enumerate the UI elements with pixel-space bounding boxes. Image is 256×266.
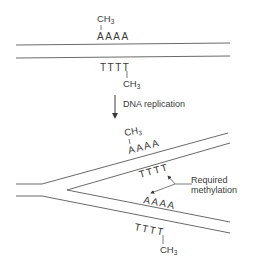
- fork-lower-outer-strand: [16, 196, 230, 233]
- dna-replication-label: DNA replication: [123, 99, 185, 109]
- dna-methylation-diagram: CH3 AAAA TTTT CH3 DNA replication CH3 AA…: [0, 0, 256, 266]
- required-methylation-label-line2: methylation: [191, 185, 237, 195]
- daughter-lower-old-bases: TTTT: [134, 221, 166, 238]
- callout-arrow-lower-icon: [151, 184, 175, 193]
- required-methylation-label-line1: Required: [191, 175, 228, 185]
- parent-top-bases: AAAA: [97, 31, 130, 42]
- replication-step: DNA replication: [115, 95, 185, 116]
- parent-top-strand: [16, 43, 230, 45]
- parent-bottom-bases: TTTT: [100, 62, 130, 73]
- parent-duplex: CH3 AAAA TTTT CH3: [16, 13, 230, 90]
- daughter-upper-methyl-bond: [129, 139, 130, 144]
- parent-bottom-strand: [16, 56, 230, 58]
- daughter-lower-methyl-label: CH3: [160, 244, 178, 256]
- replication-fork: CH3 AAAA TTTT AAAA TTTT CH3 Required met…: [16, 124, 237, 256]
- callout-arrow-upper-icon: [168, 176, 192, 184]
- daughter-upper-new-bases: TTTT: [138, 161, 170, 180]
- parent-bottom-methyl-label: CH3: [123, 78, 141, 90]
- parent-top-methyl-label: CH3: [97, 13, 115, 25]
- daughter-upper-methyl-label: CH3: [123, 124, 143, 139]
